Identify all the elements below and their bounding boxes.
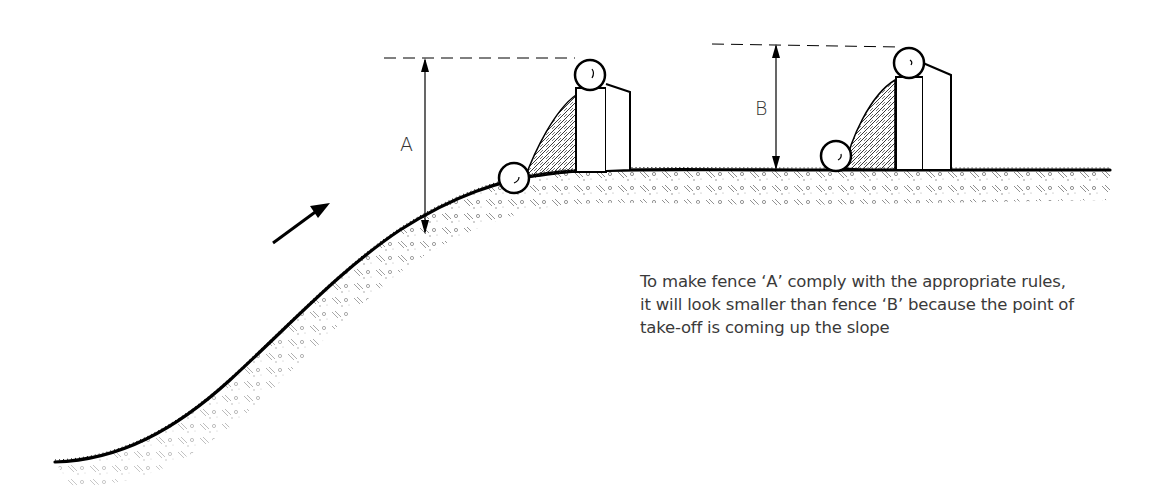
caption-line-1: To make fence ‘A’ comply with the approp…: [640, 270, 1120, 293]
caption-line-2: it will look smaller than fence ‘B’ beca…: [640, 293, 1120, 316]
caption: To make fence ‘A’ comply with the approp…: [640, 270, 1120, 339]
terrain-illustration: [0, 0, 1166, 504]
arrow-up-right-icon: [273, 203, 330, 243]
fence-b: [821, 48, 951, 171]
fence-height-diagram: A B To make fence ‘A’ comply with the ap…: [0, 0, 1166, 504]
fence-b-label: B: [755, 97, 767, 119]
caption-line-3: take-off is coming up the slope: [640, 316, 1120, 339]
fence-a-label: A: [400, 133, 413, 155]
